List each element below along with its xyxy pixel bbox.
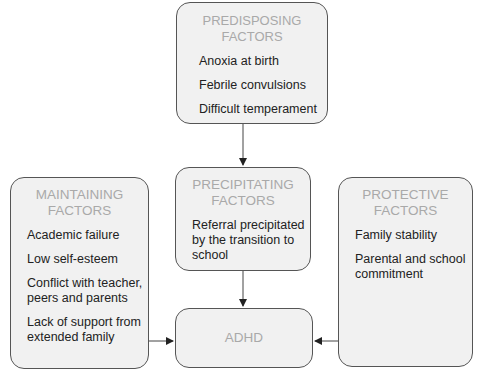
precipitating-factors-box: PRECIPITATING FACTORS Referral precipita… [175, 167, 311, 271]
protective-item: Parental and school commitment [355, 252, 473, 282]
precipitating-title-line2: FACTORS [184, 193, 302, 209]
precipitating-item: Referral precipitated by the transition … [192, 218, 310, 263]
maintaining-item: Lack of support from extended family [27, 315, 149, 345]
protective-title-line1: PROTECTIVE [347, 187, 464, 203]
protective-title-line2: FACTORS [347, 203, 464, 219]
adhd-outcome-box: ADHD [175, 308, 313, 368]
predisposing-factors-box: PREDISPOSING FACTORS Anoxia at birth Feb… [176, 2, 328, 124]
protective-item: Family stability [355, 228, 464, 243]
maintaining-title-line1: MAINTAINING [19, 187, 140, 203]
predisposing-item: Anoxia at birth [199, 54, 319, 69]
maintaining-item: Conflict with teacher, peers and parents [27, 276, 149, 306]
maintaining-item: Academic failure [27, 228, 140, 243]
maintaining-item: Low self-esteem [27, 252, 140, 267]
maintaining-factors-box: MAINTAINING FACTORS Academic failure Low… [10, 177, 149, 369]
precipitating-title-line1: PRECIPITATING [184, 177, 302, 193]
predisposing-item: Febrile convulsions [199, 78, 319, 93]
predisposing-title: PREDISPOSING FACTORS [185, 13, 319, 45]
predisposing-item: Difficult temperament [199, 102, 319, 117]
protective-factors-box: PROTECTIVE FACTORS Family stability Pare… [338, 177, 473, 367]
adhd-title: ADHD [225, 330, 263, 346]
maintaining-title-line2: FACTORS [19, 203, 140, 219]
